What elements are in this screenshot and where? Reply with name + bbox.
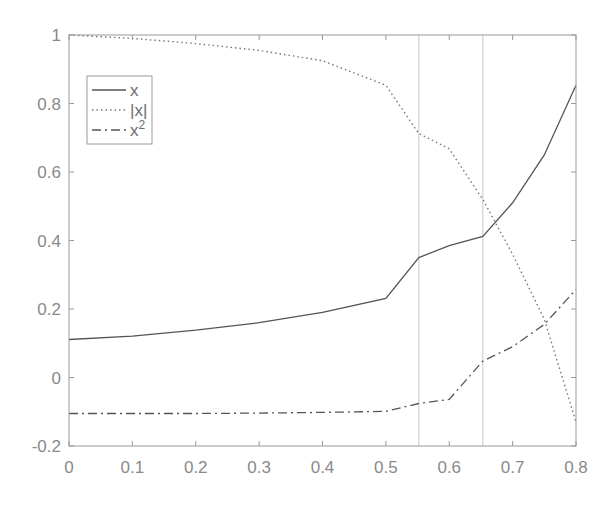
- x-tick-label: 0.5: [374, 458, 398, 477]
- y-tick-label: 0.4: [37, 232, 61, 251]
- x-tick-label: 0.6: [437, 458, 461, 477]
- line-chart: 00.10.20.30.40.50.60.70.8 -0.200.20.40.6…: [0, 0, 616, 507]
- x-tick-label: 0.1: [121, 458, 145, 477]
- x-tick-label: 0.7: [501, 458, 525, 477]
- vertical-reference-lines: [419, 35, 483, 446]
- x-tick-label: 0.3: [247, 458, 271, 477]
- y-tick-label: -0.2: [32, 437, 61, 456]
- x-tick-label: 0.8: [564, 458, 588, 477]
- x-tick-label: 0: [64, 458, 73, 477]
- y-tick-label: 0.2: [37, 300, 61, 319]
- x-tick-label: 0.2: [184, 458, 208, 477]
- y-tick-label: 0: [52, 369, 61, 388]
- legend-label: x: [130, 81, 139, 100]
- legend: x|x|x2: [87, 76, 152, 144]
- y-tick-label: 1: [52, 26, 61, 45]
- series-line-dashdot: [69, 290, 576, 414]
- y-tick-label: 0.8: [37, 95, 61, 114]
- y-tick-label: 0.6: [37, 163, 61, 182]
- x-tick-label: 0.4: [311, 458, 335, 477]
